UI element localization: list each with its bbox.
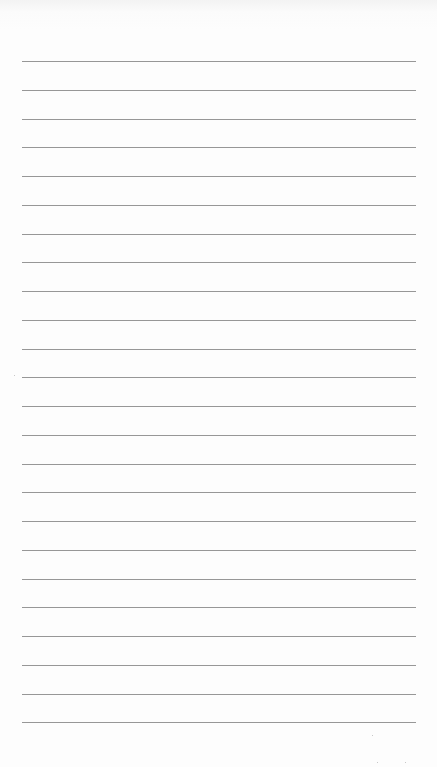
ruled-line xyxy=(22,176,416,177)
ruled-line xyxy=(22,147,416,148)
ruled-line xyxy=(22,665,416,666)
ruled-line xyxy=(22,61,416,62)
ruled-line xyxy=(22,291,416,292)
scan-speck xyxy=(372,735,373,736)
ruled-line xyxy=(22,205,416,206)
ruled-line xyxy=(22,464,416,465)
ruled-line xyxy=(22,119,416,120)
ruled-line xyxy=(22,579,416,580)
ruled-line xyxy=(22,349,416,350)
ruled-line xyxy=(22,521,416,522)
ruled-line xyxy=(22,320,416,321)
ruled-line xyxy=(22,607,416,608)
ruled-line xyxy=(22,234,416,235)
ruled-line xyxy=(22,262,416,263)
ruled-line xyxy=(22,435,416,436)
ruled-line xyxy=(22,406,416,407)
ruled-line xyxy=(22,550,416,551)
ruled-line xyxy=(22,90,416,91)
ruled-line xyxy=(22,377,416,378)
scan-speck xyxy=(377,762,378,763)
scan-speck xyxy=(405,762,406,763)
ruled-line xyxy=(22,492,416,493)
ruled-line xyxy=(22,722,416,723)
lined-paper-page xyxy=(0,0,437,767)
scan-speck xyxy=(14,375,15,376)
ruled-line xyxy=(22,636,416,637)
ruled-line xyxy=(22,694,416,695)
